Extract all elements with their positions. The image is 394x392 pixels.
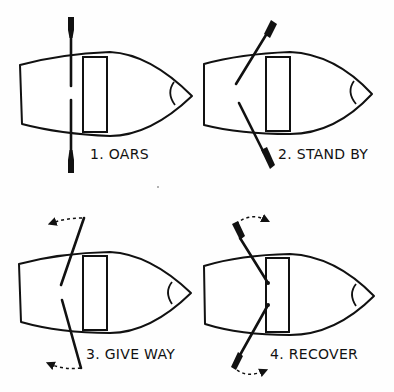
boats-drawing <box>0 0 394 392</box>
stroke-arrow-lower <box>237 370 264 374</box>
boat-seat <box>83 57 107 132</box>
stroke-arrow-upper <box>236 217 266 224</box>
panel-3-label: 3. GIVE WAY <box>86 346 175 362</box>
panel-4-label: 4. RECOVER <box>270 346 358 362</box>
stroke-arrow-lower <box>50 364 81 369</box>
stroke-arrow-upper <box>52 218 82 223</box>
boat-seat <box>266 258 289 332</box>
panel-1-label: 1. OARS <box>90 146 149 162</box>
panel-2-label: 2. STAND BY <box>278 146 368 162</box>
rowing-commands-figure: 1. OARS 2. STAND BY 3. GIVE WAY 4. RECOV… <box>0 0 394 392</box>
boat-seat <box>266 57 290 131</box>
paper-speck <box>157 186 159 188</box>
boat-seat <box>83 256 107 330</box>
